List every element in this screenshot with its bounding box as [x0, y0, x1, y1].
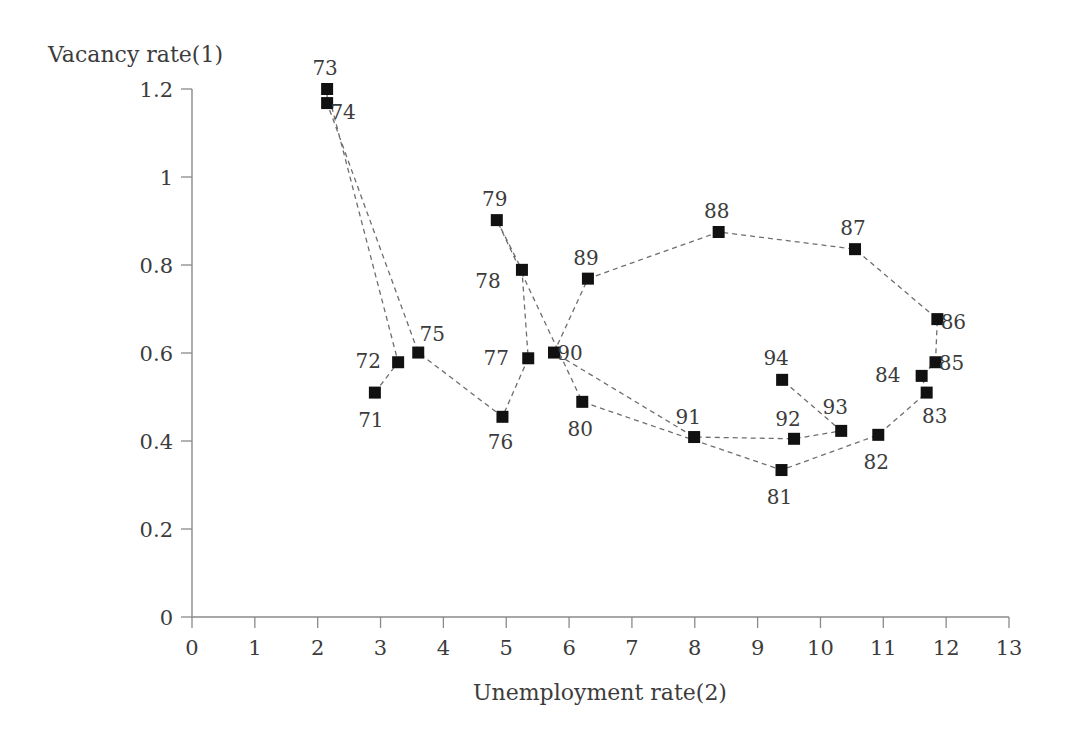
data-point-label: 91 — [675, 405, 700, 429]
data-point-label: 92 — [775, 407, 800, 431]
data-point-label: 84 — [875, 363, 900, 387]
x-axis-title: Unemployment rate(2) — [473, 680, 727, 705]
data-point-marker — [872, 429, 884, 441]
x-tick-label: 11 — [870, 636, 897, 660]
data-point-label: 72 — [355, 349, 380, 373]
data-point-marker — [835, 425, 847, 437]
data-point-marker — [849, 243, 861, 255]
data-point-label: 81 — [767, 485, 792, 509]
data-point-marker — [321, 83, 333, 95]
x-tick-label: 9 — [751, 636, 764, 660]
data-point-label: 77 — [484, 346, 509, 370]
data-point-marker — [412, 347, 424, 359]
data-point-label: 83 — [922, 404, 947, 428]
data-point-marker — [582, 273, 594, 285]
y-axis-title: Vacancy rate(1) — [47, 42, 223, 67]
axis-lines — [192, 89, 1009, 617]
x-tick-label: 10 — [807, 636, 834, 660]
x-tick-label: 13 — [996, 636, 1023, 660]
data-point-label: 73 — [312, 56, 337, 80]
data-point-marker — [775, 464, 787, 476]
data-point-marker — [516, 264, 528, 276]
x-tick-label: 2 — [311, 636, 324, 660]
data-point-label: 90 — [557, 341, 582, 365]
y-tick-label: 0.2 — [140, 518, 173, 542]
data-point-marker — [713, 226, 725, 238]
data-point-label: 89 — [573, 246, 598, 270]
axis-ticks — [181, 89, 1009, 628]
y-tick-label: 0.6 — [140, 342, 173, 366]
y-tick-label: 0.8 — [140, 254, 173, 278]
data-point-label: 76 — [488, 430, 513, 454]
data-point-label: 88 — [704, 199, 729, 223]
data-point-label: 79 — [482, 187, 507, 211]
y-tick-label: 0 — [160, 606, 173, 630]
data-point-label: 82 — [864, 450, 889, 474]
plot-area: 01234567891011121300.20.40.60.811.2 7172… — [0, 0, 1066, 741]
data-point-label: 75 — [420, 322, 445, 346]
data-point-marker — [491, 214, 503, 226]
data-point-labels: 7172737475767778798081828384858687888990… — [312, 56, 966, 509]
data-point-marker — [392, 356, 404, 368]
data-point-label: 71 — [358, 408, 383, 432]
data-point-label: 94 — [763, 346, 788, 370]
data-point-label: 74 — [330, 100, 355, 124]
data-point-marker — [496, 411, 508, 423]
data-point-marker — [576, 396, 588, 408]
y-tick-label: 0.4 — [140, 430, 173, 454]
y-tick-label: 1 — [160, 166, 173, 190]
data-point-label: 80 — [568, 417, 593, 441]
data-point-label: 85 — [939, 351, 964, 375]
data-point-marker — [788, 433, 800, 445]
data-point-label: 78 — [475, 269, 500, 293]
x-tick-label: 5 — [500, 636, 513, 660]
x-tick-label: 3 — [374, 636, 387, 660]
data-point-markers — [321, 83, 943, 476]
x-tick-label: 6 — [562, 636, 575, 660]
x-tick-label: 0 — [185, 636, 198, 660]
data-point-marker — [369, 387, 381, 399]
y-tick-label: 1.2 — [140, 78, 173, 102]
data-point-marker — [921, 387, 933, 399]
x-tick-label: 8 — [688, 636, 701, 660]
data-point-marker — [776, 374, 788, 386]
data-point-label: 87 — [840, 216, 865, 240]
data-point-marker — [916, 370, 928, 382]
data-point-marker — [688, 431, 700, 443]
data-point-label: 86 — [941, 310, 966, 334]
data-point-label: 93 — [822, 395, 847, 419]
x-tick-label: 12 — [933, 636, 960, 660]
data-point-marker — [522, 352, 534, 364]
x-tick-label: 7 — [625, 636, 638, 660]
axes — [192, 89, 1009, 617]
x-tick-label: 4 — [437, 636, 450, 660]
x-tick-label: 1 — [248, 636, 261, 660]
vacancy-unemployment-scatter-chart: 01234567891011121300.20.40.60.811.2 7172… — [0, 0, 1066, 741]
